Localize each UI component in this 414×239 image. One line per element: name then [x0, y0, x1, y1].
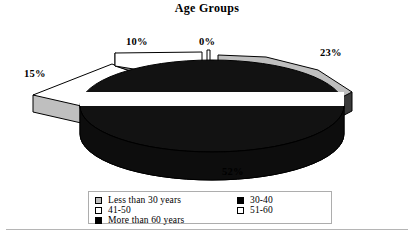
- pie-slice-more-than-60-topmask: [80, 92, 344, 106]
- pie-chart-figure: Age Groups 23% 15% 10% 0: [0, 0, 414, 239]
- legend-swatch-icon-41-50: [95, 207, 102, 214]
- slice-label-41-50: 15%: [24, 68, 46, 79]
- legend-item-30-40[interactable]: 30-40: [237, 195, 273, 205]
- footer-divider: [6, 229, 408, 230]
- legend-item-more-than-60[interactable]: More than 60 years: [95, 215, 184, 225]
- legend-item-51-60[interactable]: 51-60: [237, 205, 273, 215]
- pie-slice-more-than-60: [80, 60, 344, 180]
- legend-label-more-than-60: More than 60 years: [108, 215, 184, 225]
- legend-label-30-40: 30-40: [250, 195, 273, 205]
- slice-label-less-than-30: 23%: [320, 47, 342, 58]
- slice-label-more-than-60: 52%: [222, 166, 244, 177]
- legend-swatch-icon-30-40: [237, 197, 244, 204]
- legend-label-less-than-30: Less than 30 years: [108, 195, 181, 205]
- legend-swatch-icon-51-60: [237, 207, 244, 214]
- legend-item-less-than-30[interactable]: Less than 30 years: [95, 195, 181, 205]
- legend-label-51-60: 51-60: [250, 205, 273, 215]
- legend-swatch-icon-more-than-60: [95, 217, 102, 224]
- chart-title: Age Groups: [0, 1, 414, 16]
- legend-swatch-icon-less-than-30: [95, 197, 102, 204]
- slice-label-51-60: 10%: [126, 36, 148, 47]
- legend-item-41-50[interactable]: 41-50: [95, 205, 131, 215]
- slice-label-30-40: 0%: [199, 36, 215, 47]
- chart-legend: Less than 30 years 41-50 More than 60 ye…: [88, 191, 332, 224]
- legend-grid: Less than 30 years 41-50 More than 60 ye…: [89, 192, 331, 223]
- legend-label-41-50: 41-50: [108, 205, 131, 215]
